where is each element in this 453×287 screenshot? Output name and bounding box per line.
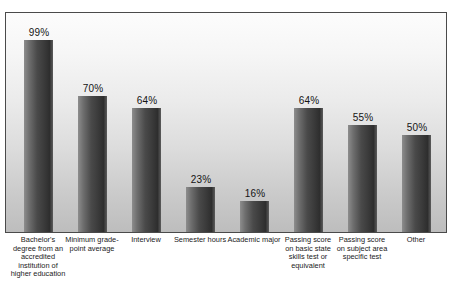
category-label: Other — [388, 236, 444, 245]
bar-value-label: 50% — [390, 122, 444, 133]
category-label: Semester hours — [172, 236, 228, 245]
bar-value-label: 64% — [282, 95, 336, 106]
bar[interactable] — [348, 125, 377, 232]
bar-slot: 55% — [336, 13, 390, 232]
bar[interactable] — [132, 108, 161, 232]
bar-slot: 64% — [120, 13, 174, 232]
category-label: Passing score on basic state skills test… — [280, 236, 336, 270]
bar[interactable] — [240, 201, 269, 232]
scan-artifact-strip — [0, 0, 453, 11]
bar-slot: 50% — [390, 13, 444, 232]
bar-value-label: 99% — [12, 27, 66, 38]
category-label: Academic major — [226, 236, 282, 245]
bar-slot: 70% — [66, 13, 120, 232]
category-label: Interview — [118, 236, 174, 245]
bar-slot: 16% — [228, 13, 282, 232]
bar-chart: 99%70%64%23%16%64%55%50% Bachelor's degr… — [0, 0, 453, 287]
plot-frame: 99%70%64%23%16%64%55%50% — [5, 12, 447, 233]
category-label: Bachelor's degree from an accredited ins… — [10, 236, 66, 279]
plot-area: 99%70%64%23%16%64%55%50% — [6, 13, 446, 232]
bar-slot: 23% — [174, 13, 228, 232]
bar-value-label: 23% — [174, 174, 228, 185]
category-axis-labels: Bachelor's degree from an accredited ins… — [5, 236, 447, 286]
bar-value-label: 16% — [228, 188, 282, 199]
bar-value-label: 64% — [120, 95, 174, 106]
bar[interactable] — [402, 135, 431, 232]
bar[interactable] — [24, 40, 53, 232]
bar-slot: 99% — [12, 13, 66, 232]
bar[interactable] — [78, 96, 107, 232]
category-label: Passing score on subject area specific t… — [334, 236, 390, 262]
bar[interactable] — [294, 108, 323, 232]
bar-value-label: 55% — [336, 112, 390, 123]
bar-value-label: 70% — [66, 83, 120, 94]
bar[interactable] — [186, 187, 215, 232]
category-label: Minimum grade-point average — [64, 236, 120, 253]
bar-slot: 64% — [282, 13, 336, 232]
